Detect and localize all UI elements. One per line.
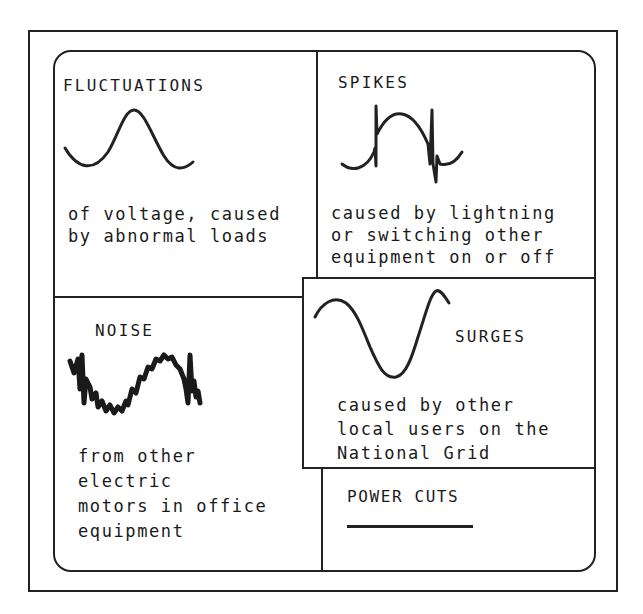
description-line: or switching other xyxy=(331,224,544,246)
description-line: caused by other xyxy=(337,394,515,416)
description-line: National Grid xyxy=(337,442,491,464)
panel-title: FLUCTUATIONS xyxy=(63,76,205,95)
sine-wave-with-spikes-icon xyxy=(338,100,468,195)
description-line: equipment xyxy=(78,520,185,542)
divider-vertical-top xyxy=(316,50,318,278)
description-line: by abnormal loads xyxy=(68,225,269,247)
description-line: equipment on or off xyxy=(331,246,556,268)
description-line: motors in office xyxy=(78,495,267,517)
large-amplitude-wave-icon xyxy=(312,285,442,390)
smooth-sine-wave-icon xyxy=(60,100,200,180)
divider-horizontal-left xyxy=(53,296,303,298)
description-line: of voltage, caused xyxy=(68,203,281,225)
description-line: caused by lightning xyxy=(331,202,556,224)
panel-title: NOISE xyxy=(95,321,154,340)
divider-vertical-bottom xyxy=(321,468,323,571)
description-line: from other xyxy=(78,445,196,467)
flat-line-icon xyxy=(347,525,473,528)
panel-title: SPIKES xyxy=(338,73,409,92)
noisy-sine-wave-icon xyxy=(66,345,206,430)
description-line: electric xyxy=(78,470,173,492)
panel-title: POWER CUTS xyxy=(347,487,459,506)
panel-title: SURGES xyxy=(455,327,526,346)
description-line: local users on the xyxy=(337,418,550,440)
